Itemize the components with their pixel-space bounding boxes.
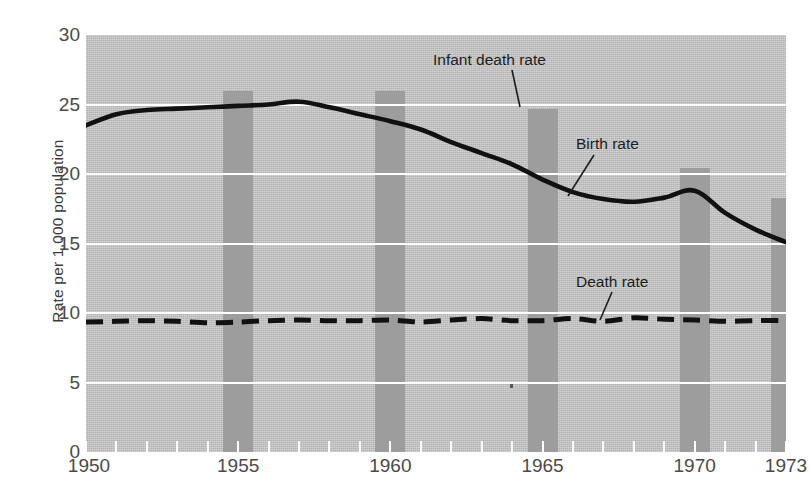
y-axis-tick-labels: 051015202530 bbox=[30, 0, 80, 503]
annotation-birth-rate: Birth rate bbox=[576, 136, 639, 152]
birth-rate-line bbox=[86, 102, 786, 242]
annotation-infant-death-rate: Infant death rate bbox=[433, 52, 546, 68]
chart-figure: Rate per 1,000 population 051015202530 1… bbox=[0, 0, 810, 503]
y-tick-label-30: 30 bbox=[36, 25, 80, 44]
x-tick-label-1960: 1960 bbox=[350, 456, 430, 475]
x-tick-label-1970: 1970 bbox=[655, 456, 735, 475]
annotation-death-rate: Death rate bbox=[576, 274, 648, 290]
y-tick-label-25: 25 bbox=[36, 95, 80, 114]
y-tick-label-10: 10 bbox=[36, 303, 80, 322]
x-tick-label-1955: 1955 bbox=[198, 456, 278, 475]
x-tick-label-1973: 1973 bbox=[746, 456, 810, 475]
y-tick-label-15: 15 bbox=[36, 234, 80, 253]
death-rate-line bbox=[86, 318, 786, 323]
y-tick-label-20: 20 bbox=[36, 164, 80, 183]
x-axis-tick-labels: 195019551960196519701973 bbox=[0, 456, 810, 486]
series-lines bbox=[86, 35, 786, 452]
x-tick-label-1965: 1965 bbox=[503, 456, 583, 475]
y-tick-label-5: 5 bbox=[36, 373, 80, 392]
plot-area bbox=[86, 35, 786, 452]
x-tick-label-1950: 1950 bbox=[49, 456, 129, 475]
